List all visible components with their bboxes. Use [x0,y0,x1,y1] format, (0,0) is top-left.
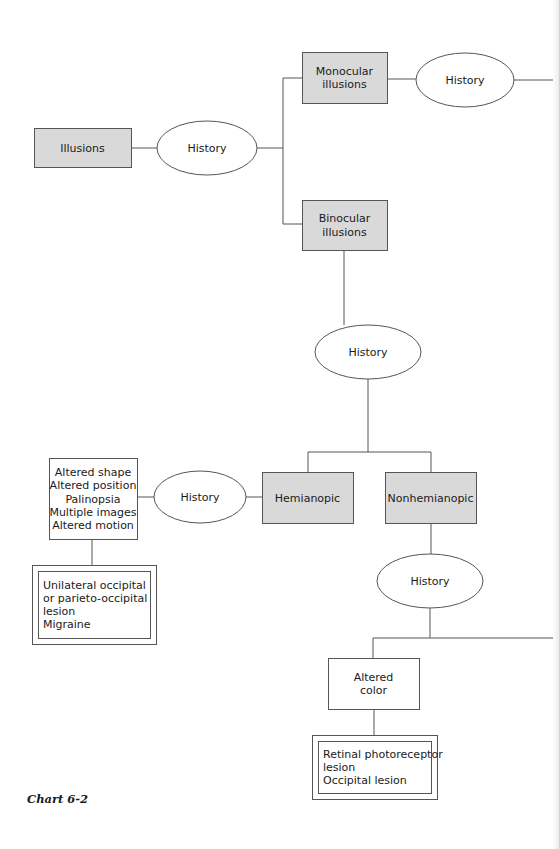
node-label: Palinopsia [65,493,120,506]
node-history-mono: History [416,53,514,107]
node-history-bino: History [315,325,421,379]
node-label: History [410,575,450,588]
node-label: History [348,346,388,359]
node-illusions: Illusions [35,129,132,168]
node-label: Hemianopic [275,492,340,505]
node-history-1: History [157,121,257,175]
node-monocular: Monocularillusions [303,53,388,104]
node-history-nonhemi: History [377,554,483,608]
node-label: Occipital lesion [323,774,407,787]
node-label: Multiple images [49,506,136,519]
node-label: History [180,491,220,504]
nodes: IllusionsHistoryMonocularillusionsHistor… [33,53,515,800]
flowchart: IllusionsHistoryMonocularillusionsHistor… [0,0,559,849]
node-label: Altered shape [55,466,132,479]
node-label: Altered motion [52,519,134,532]
node-label: Nonhemianopic [388,492,474,505]
node-history-hemi: History [154,471,246,523]
node-hemi-findings: Altered shapeAltered positionPalinopsiaM… [49,459,137,540]
node-hemi-diagnosis: Unilateral occipital or parieto-occipita… [33,566,157,645]
node-label: or parieto-occipital [43,592,147,605]
node-nonhemianopic: Nonhemianopic [386,473,477,524]
node-altered-color: Alteredcolor [329,659,420,710]
node-label: History [187,142,227,155]
node-label: color [360,684,388,697]
node-binocular: Binocularillusions [303,201,388,251]
node-label: Illusions [60,142,105,155]
node-label: Migraine [43,618,91,631]
node-label: lesion [323,761,355,774]
chart-caption: Chart 6-2 [27,792,88,806]
node-label: Altered position [50,479,137,492]
node-label: illusions [322,78,367,91]
node-label: lesion [43,605,75,618]
node-label: Altered [354,671,394,684]
node-color-diagnosis: Retinal photoreceptor lesionOccipital le… [313,736,444,800]
node-label: History [445,74,485,87]
node-label: Monocular [316,65,374,78]
node-label: Retinal photoreceptor [323,748,443,761]
node-label: Unilateral occipital [43,579,146,592]
node-hemianopic: Hemianopic [263,473,354,524]
node-label: illusions [322,226,367,239]
page-gutter-shadow [553,0,559,849]
node-label: Binocular [319,212,371,225]
connector-lines [92,78,559,735]
